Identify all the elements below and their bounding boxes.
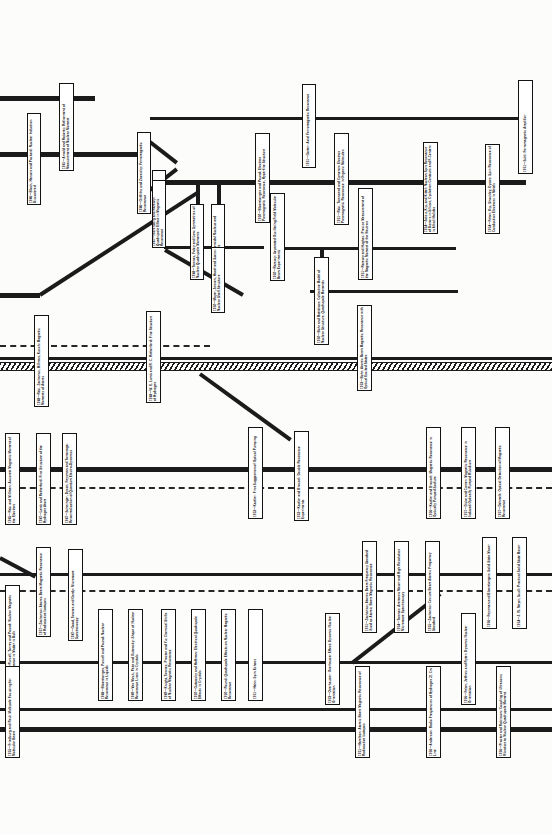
event-node-text: 1948—Rabi, Zacharias, Millman, Kusch: Ma… [38, 317, 46, 405]
event-node-text: 1956—Purcell, Torrey and Pound: Nuclear … [9, 587, 17, 675]
event-node-text: 1953—Bohr: Atomic Beam Magnetic Resonanc… [361, 307, 369, 389]
event-node-text: 1941—Arnold and Roberts: Refinement of M… [63, 85, 71, 169]
event-node-text: 1956—Feher, Jeffries and Ryter: Dynamic … [465, 615, 473, 703]
event-node-n07[interactable]: 1948—Townes, Foley and Low: Symmetries o… [190, 204, 204, 280]
event-node-n11[interactable]: 1951—Gorter: Axial Ferromagnetic Resonan… [302, 84, 316, 168]
event-node-text: 1954—Townes: Ammonia Maser and High Reso… [398, 543, 406, 631]
event-node-n27[interactable]: 1957—Dicke and Carver: Magnetic Resonanc… [461, 427, 476, 519]
event-node-n33[interactable]: 1949—Van Vleck, Pake and Gutowsky: Shape… [128, 609, 143, 701]
hatched-band [0, 362, 552, 371]
diagonal-connector [199, 372, 292, 441]
event-node-n20[interactable]: 1948—W. E. Lamb and R. C. Retherford: Fi… [146, 311, 161, 403]
event-node-text: 1957—Zacharias: Atomic Beam Magnetic Res… [40, 549, 48, 635]
event-node-text: 1951—Gorter: Axial Ferromagnetic Resonan… [307, 86, 311, 166]
event-node-n29[interactable]: 1957—Zacharias: Atomic Beam Magnetic Res… [36, 547, 51, 637]
event-node-n23[interactable]: 1947—Schwinger, Dyson, Feynman and Tomon… [62, 433, 77, 525]
event-node-n45[interactable]: 1951—Hamilton: Atomic Beam Magnetic Reso… [355, 666, 370, 758]
trunk-line [0, 96, 95, 101]
event-node-n46[interactable]: 1956—Anderson: Radio Frequencies of Hydr… [426, 666, 441, 758]
event-node-text: 1946—Griffiths and Zavoisky: Ferromagnet… [140, 134, 148, 212]
event-node-n16[interactable]: 1950—Ramsey: Separated Oscillating Field… [270, 193, 285, 281]
event-node-n38[interactable]: 1951—Zacharias: Atomic Beam Frequency St… [362, 541, 377, 633]
event-node-n25[interactable]: 1952—Kastler and Brossel: Double Resonan… [294, 431, 309, 521]
trunk-line [0, 357, 552, 360]
event-node-n09[interactable]: 1950—Mayer, Jensen, Haxel and Suess: Nuc… [211, 247, 225, 313]
event-node-n47[interactable]: 1956—Feher, Jeffries and Ryter: Dynamic … [461, 613, 476, 705]
trunk-line [0, 708, 552, 711]
dashed-connector-line [0, 345, 210, 347]
event-node-text: 1956—Anderson: Radio Frequencies of Hydr… [430, 668, 438, 756]
event-node-n32[interactable]: 1948—Bloembergen, Purcell and Pound: Nuc… [98, 609, 113, 701]
event-node-text: 1950—Bohr and Mottelson: Collective Mode… [318, 259, 326, 343]
event-node-n40[interactable]: 1955—Zacharias: Cesium Beam Atomic Frequ… [425, 541, 440, 633]
event-node-n37[interactable]: 1951—Hahn: Spin Echoes [248, 609, 263, 701]
event-node-text: 1950—Gutowsky and Hoffman: Electrical Qu… [195, 611, 203, 699]
event-node-text: 1951—Hahn: Spin Echoes [254, 611, 258, 699]
event-node-n22[interactable]: 1947—Lamb and Retherford: Fine Structure… [36, 433, 51, 525]
event-node-n48[interactable]: 1956—Proctor and Robinson: Coupling of U… [496, 666, 511, 758]
event-node-n31[interactable]: 1956—Purcell, Torrey and Pound: Nuclear … [5, 585, 20, 677]
event-node-n18[interactable]: 1953—Bohr: Atomic Beam Magnetic Resonanc… [357, 305, 372, 391]
event-node-n12[interactable]: 1951—Suhl: Ferromagnetic Amplifier [518, 80, 533, 174]
event-node-n15[interactable]: 1954—Feher, Kip, Shockley, Dyson: Spin R… [485, 144, 500, 234]
event-node-n43[interactable]: 1953—Overhauser: Overhauser Effect: Dyna… [325, 613, 340, 705]
event-node-n06[interactable]: 1950—Bloembergen and Pound: Electron Par… [255, 133, 270, 223]
event-node-text: 1956—Proctor and Robinson: Coupling of U… [500, 668, 508, 756]
event-node-text: 1949—Knight, Townes, Proctor and Yu: Che… [165, 611, 173, 699]
event-node-text: 1951—Suhl: Ferromagnetic Amplifier [524, 82, 528, 172]
event-node-n28[interactable]: 1957—Dehmelt: Optical Detection of Magne… [495, 427, 510, 519]
diagonal-connector [149, 140, 178, 164]
event-node-text: 1957—Dehmelt: Optical Detection of Magne… [499, 429, 507, 517]
event-node-text: 1951—Hamilton: Atomic Beam Magnetic Reso… [359, 668, 367, 756]
event-node-text: 1950—Mayer, Jensen, Haxel and Suess: Nuc… [214, 249, 222, 311]
trunk-line [164, 180, 262, 185]
event-node-text: 1948—Bloembergen, Purcell and Pound: Nuc… [102, 611, 110, 699]
event-node-text: 1955—Zacharias: Cesium Beam Atomic Frequ… [429, 543, 437, 631]
event-node-n34[interactable]: 1949—Knight, Townes, Proctor and Yu: Che… [161, 609, 176, 701]
event-node-text: 1950—Bloembergen and Pound: Electron Par… [259, 135, 267, 221]
event-node-n10[interactable]: 1950—Bohr and Mottelson: Collective Mode… [314, 257, 329, 345]
event-node-text: 1951—Zacharias: Atomic Beam Frequency St… [366, 543, 374, 631]
event-node-n14[interactable]: 1954—Jaksu, Kip, and Kittel: Nucleon Spi… [423, 142, 438, 234]
event-node-n35[interactable]: 1950—Gutowsky and Hoffman: Electrical Qu… [191, 609, 206, 701]
event-node-text: 1951—Ramsey and Hughes: Precise Measurem… [362, 190, 370, 278]
event-node-text: 1955—Friedburg and Paul: Multipole Focus… [9, 668, 17, 756]
event-node-text: 1951—Rabi, Townsend and Cameron: Electro… [338, 135, 346, 223]
event-node-n02[interactable]: 1946—Bloch, Hansen and Packard: Nuclear … [27, 113, 41, 205]
event-node-text: 1947—Good, Townes and Gordy: Microwave S… [72, 551, 80, 639]
event-node-n42[interactable]: 1954—J. W. Meyer, Scull: Practical Solid… [512, 537, 527, 629]
event-node-text: 1949—Van Vleck, Pake and Gutowsky: Shape… [132, 611, 140, 699]
flow-chart-canvas: 1941—Arnold and Roberts: Refinement of M… [0, 0, 552, 835]
event-node-n24[interactable]: 1952—Kastler: First Suggestion of Optica… [248, 427, 263, 519]
event-node-n21[interactable]: 1945—Rabi and Millman: Accurate Magnetic… [5, 433, 20, 525]
event-node-text: 1954—Jaksu, Kip, and Kittel: Nucleon Spi… [425, 144, 437, 232]
event-node-n26[interactable]: 1956—Kastler and Brossel: Magnetic Reson… [426, 427, 441, 519]
event-node-text: 1950—Pound: Quadrupole Effects on Nuclea… [225, 611, 233, 699]
event-node-text: 1957—Dicke and Carver: Magnetic Resonanc… [465, 429, 473, 517]
event-node-n03[interactable]: 1946—Griffiths and Zavoisky: Ferromagnet… [137, 132, 151, 214]
event-node-n41[interactable]: 1956—Feynman and Bloembergen: Solid Stat… [482, 537, 497, 629]
event-node-text: 1947—Nierenberg and Ramsey: Quadrupole E… [153, 182, 165, 246]
event-node-text: 1947—Schwinger, Dyson, Feynman and Tomon… [66, 435, 74, 523]
event-node-n36[interactable]: 1950—Pound: Quadrupole Effects on Nuclea… [221, 609, 236, 701]
event-node-n13[interactable]: 1951—Rabi, Townsend and Cameron: Electro… [334, 133, 349, 225]
event-node-n30[interactable]: 1947—Good, Townes and Gordy: Microwave S… [68, 549, 83, 641]
trunk-line [150, 117, 525, 120]
event-node-n05[interactable]: 1947—Nierenberg and Ramsey: Quadrupole E… [152, 180, 166, 248]
event-node-text: 1953—Overhauser: Overhauser Effect: Dyna… [329, 615, 337, 703]
event-node-text: 1954—Feher, Kip, Shockley, Dyson: Spin R… [489, 146, 497, 232]
event-node-text: 1946—Bloch, Hansen and Packard: Nuclear … [30, 115, 38, 203]
trunk-line [0, 727, 552, 732]
event-node-n44[interactable]: 1955—Friedburg and Paul: Multipole Focus… [5, 666, 20, 758]
trunk-line [0, 293, 40, 298]
event-node-text: 1952—Kastler: First Suggestion of Optica… [254, 429, 258, 517]
event-node-text: 1956—Kastler and Brossel: Magnetic Reson… [430, 429, 438, 517]
event-node-n01[interactable]: 1941—Arnold and Roberts: Refinement of M… [59, 83, 74, 171]
event-node-text: 1956—Feynman and Bloembergen: Solid Stat… [488, 539, 492, 627]
event-node-text: 1952—Kastler and Brossel: Double Resonan… [298, 433, 306, 519]
event-node-text: 1948—W. E. Lamb and R. C. Retherford: Fi… [150, 313, 158, 401]
event-node-n39[interactable]: 1954—Townes: Ammonia Maser and High Reso… [394, 541, 409, 633]
event-node-n17[interactable]: 1951—Ramsey and Hughes: Precise Measurem… [358, 188, 373, 280]
event-node-text: 1954—J. W. Meyer, Scull: Practical Solid… [518, 539, 522, 627]
event-node-n19[interactable]: 1948—Rabi, Zacharias, Millman, Kusch: Ma… [34, 315, 49, 407]
